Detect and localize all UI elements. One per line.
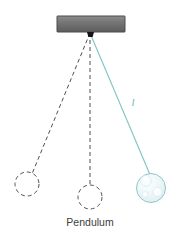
pendulum-bob-highlight-1 [141,176,152,187]
string-length-label: l [131,96,134,108]
diagram-canvas: l Pendulum [0,0,180,233]
pendulum-bob-body [137,174,166,203]
pendulum-diagram: l Pendulum [0,0,180,233]
pendulum-bob-highlight-3 [142,192,148,198]
figure-caption: Pendulum [66,216,114,228]
support-bar [57,16,125,32]
pendulum-bob-highlight-2 [153,187,162,196]
pendulum-bob [137,174,166,203]
